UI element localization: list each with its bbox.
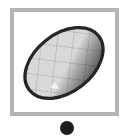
thumbnail-widget: Decorated egg with diamond checkerboard … <box>0 0 132 139</box>
selection-dot[interactable] <box>60 121 74 135</box>
egg-thumbnail-tile[interactable]: Decorated egg with diamond checkerboard … <box>10 8 119 116</box>
egg-artwork <box>14 12 115 112</box>
